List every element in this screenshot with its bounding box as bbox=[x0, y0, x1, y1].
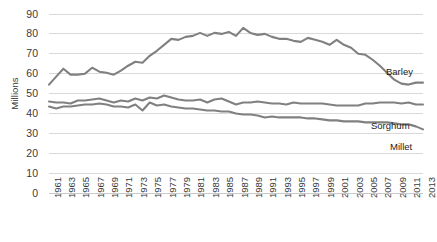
series-line-barley bbox=[49, 28, 423, 85]
series-line-millet bbox=[49, 103, 423, 130]
series-label-sorghum: Sorghum bbox=[371, 120, 410, 131]
series-label-barley: Barley bbox=[386, 66, 413, 77]
series-lines bbox=[49, 28, 423, 129]
series-label-millet: Millet bbox=[390, 141, 412, 152]
